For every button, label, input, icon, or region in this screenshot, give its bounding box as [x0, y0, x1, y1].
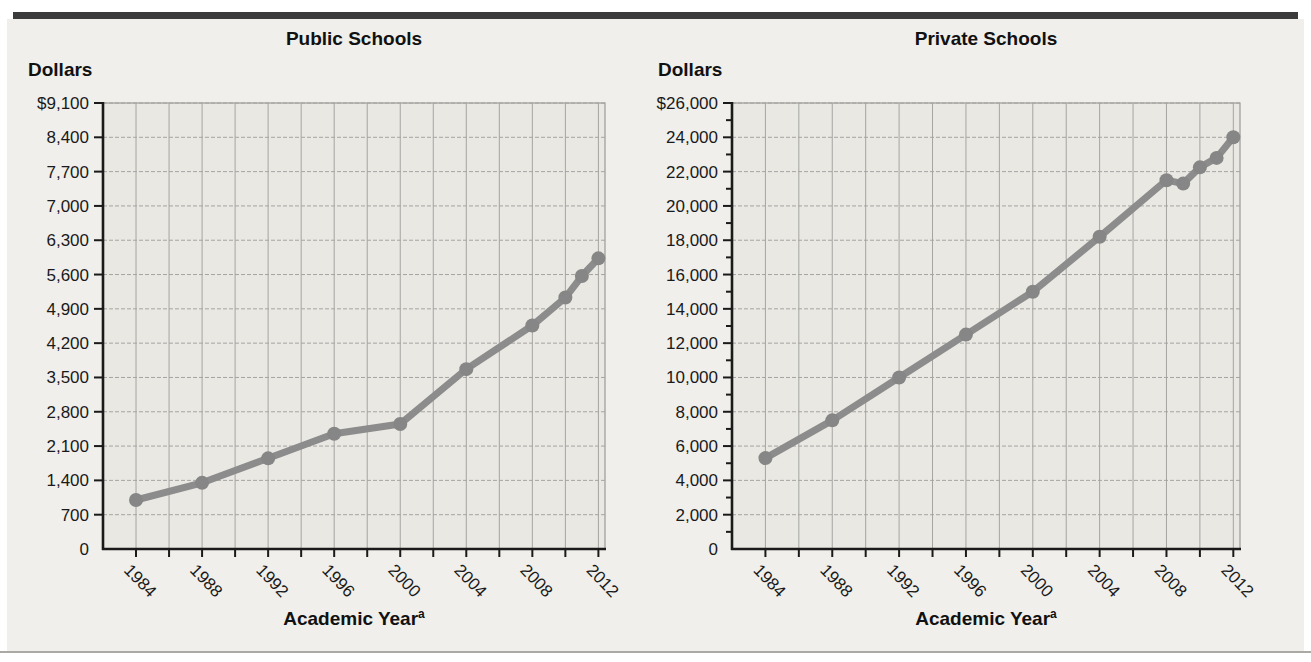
y-tick-label: 4,000: [675, 471, 718, 490]
x-tick-label: 1996: [318, 561, 358, 601]
x-tick-label: 2000: [384, 561, 424, 601]
y-tick-label: 4,900: [46, 300, 89, 319]
x-tick-label: 1984: [750, 561, 790, 601]
data-point: [959, 328, 973, 342]
y-tick-label: 22,000: [666, 163, 718, 182]
data-point: [1159, 173, 1173, 187]
y-tick-label: 14,000: [666, 300, 718, 319]
data-point: [195, 476, 209, 490]
y-tick-label: 3,500: [46, 368, 89, 387]
y-tick-label: 6,000: [675, 437, 718, 456]
public-chart-title: Public Schools: [154, 28, 554, 50]
footnote-marker: a: [418, 607, 425, 621]
x-tick-label: 2008: [1151, 561, 1191, 601]
y-tick-label: $9,100: [37, 94, 89, 113]
x-tick-label: 1996: [950, 561, 990, 601]
y-tick-label: $26,000: [657, 94, 718, 113]
private-schools-line-chart: $26,00024,00022,00020,00018,00016,00014,…: [655, 90, 1311, 662]
data-point: [558, 291, 572, 305]
y-tick-label: 4,200: [46, 334, 89, 353]
x-tick-label: 1988: [186, 561, 226, 601]
data-point: [1093, 230, 1107, 244]
data-point: [261, 451, 275, 465]
y-tick-label: 0: [80, 540, 89, 559]
public-x-axis-label-text: Academic Year: [283, 608, 418, 629]
x-tick-label: 1988: [816, 561, 856, 601]
y-tick-label: 700: [61, 506, 89, 525]
x-tick-label: 1992: [252, 561, 292, 601]
data-point: [525, 319, 539, 333]
y-tick-label: 2,800: [46, 403, 89, 422]
data-point: [591, 251, 605, 265]
data-point: [393, 417, 407, 431]
data-point: [129, 493, 143, 507]
public-x-axis-label: Academic Yeara: [204, 607, 504, 630]
y-tick-label: 16,000: [666, 266, 718, 285]
y-tick-label: 20,000: [666, 197, 718, 216]
data-point: [575, 269, 589, 283]
y-tick-label: 18,000: [666, 231, 718, 250]
y-tick-label: 7,000: [46, 197, 89, 216]
x-tick-label: 1992: [883, 561, 923, 601]
x-tick-label: 2004: [1084, 561, 1124, 601]
footnote-marker: a: [1050, 607, 1057, 621]
y-tick-label: 2,000: [675, 506, 718, 525]
data-point: [758, 451, 772, 465]
y-tick-label: 0: [709, 540, 718, 559]
y-tick-label: 1,400: [46, 471, 89, 490]
x-tick-label: 2000: [1017, 561, 1057, 601]
private-x-axis-label: Academic Yeara: [836, 607, 1136, 630]
data-point: [459, 362, 473, 376]
data-point: [327, 427, 341, 441]
y-tick-label: 8,000: [675, 403, 718, 422]
bottom-divider-line: [0, 651, 1311, 653]
data-point: [1176, 177, 1190, 191]
y-tick-label: 12,000: [666, 334, 718, 353]
data-point: [1210, 151, 1224, 165]
y-tick-label: 2,100: [46, 437, 89, 456]
x-tick-label: 2012: [583, 561, 623, 601]
public-schools-line-chart: $9,1008,4007,7007,0006,3005,6004,9004,20…: [0, 90, 656, 662]
y-tick-label: 5,600: [46, 266, 89, 285]
y-tick-label: 24,000: [666, 128, 718, 147]
data-point: [1226, 130, 1240, 144]
y-tick-label: 8,400: [46, 128, 89, 147]
data-point: [1193, 160, 1207, 174]
data-point: [892, 370, 906, 384]
y-tick-label: 6,300: [46, 231, 89, 250]
x-tick-label: 1984: [120, 561, 160, 601]
plot-area: [732, 103, 1240, 549]
private-y-axis-unit-label: Dollars: [658, 59, 722, 81]
x-tick-label: 2004: [450, 561, 490, 601]
x-tick-label: 2008: [516, 561, 556, 601]
x-tick-label: 2012: [1217, 561, 1257, 601]
top-divider-bar: [13, 12, 1298, 19]
private-chart-title: Private Schools: [786, 28, 1186, 50]
data-point: [1026, 285, 1040, 299]
data-point: [825, 413, 839, 427]
private-x-axis-label-text: Academic Year: [915, 608, 1050, 629]
public-y-axis-unit-label: Dollars: [28, 59, 92, 81]
y-tick-label: 7,700: [46, 163, 89, 182]
y-tick-label: 10,000: [666, 368, 718, 387]
